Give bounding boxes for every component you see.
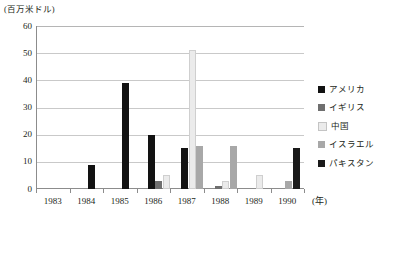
x-axis-tick xyxy=(103,189,104,193)
bar xyxy=(122,83,129,189)
bar xyxy=(88,165,95,189)
legend-item: 中国 xyxy=(318,121,374,131)
x-axis-tick xyxy=(237,189,238,193)
x-axis-tick xyxy=(70,189,71,193)
legend-item: パキスタン xyxy=(318,158,374,168)
x-axis-unit-label: (年) xyxy=(312,197,327,206)
legend-item-label: アメリカ xyxy=(329,85,365,94)
y-axis-tick-label: 60 xyxy=(2,22,32,31)
legend-swatch-icon xyxy=(318,160,325,167)
y-axis-tick-label: 20 xyxy=(2,130,32,139)
bars-layer xyxy=(36,26,304,189)
x-axis-tick xyxy=(271,189,272,193)
legend-item-label: 中国 xyxy=(331,122,349,131)
chart-legend: アメリカイギリス中国イスラエルパキスタン xyxy=(318,84,374,177)
bar xyxy=(285,181,292,189)
bar xyxy=(215,186,222,189)
y-axis-tick-label: 30 xyxy=(2,103,32,112)
legend-item-label: イスラエル xyxy=(329,140,374,149)
x-axis-tick xyxy=(137,189,138,193)
bar xyxy=(256,175,263,189)
x-axis-tick xyxy=(304,189,305,193)
bar xyxy=(230,146,237,189)
legend-swatch-icon xyxy=(318,141,325,148)
bar xyxy=(196,146,203,189)
bar xyxy=(148,135,155,189)
chart-figure: (百万米ドル) 0102030405060 198319841985198619… xyxy=(0,0,415,265)
bar xyxy=(222,181,229,189)
x-axis-tick xyxy=(170,189,171,193)
bar xyxy=(155,181,162,189)
legend-swatch-icon xyxy=(318,86,325,93)
y-axis-tick-label: 50 xyxy=(2,49,32,58)
y-axis-tick-label: 40 xyxy=(2,76,32,85)
legend-item: イスラエル xyxy=(318,140,374,150)
bar xyxy=(163,175,170,189)
legend-swatch-icon xyxy=(318,104,325,111)
bar xyxy=(189,50,196,189)
x-axis-tick-label: 1990 xyxy=(267,197,307,206)
legend-item: イギリス xyxy=(318,103,374,113)
y-axis-unit-label: (百万米ドル) xyxy=(4,2,55,14)
y-axis-tick-label: 0 xyxy=(2,185,32,194)
legend-swatch-icon xyxy=(318,122,327,131)
bar xyxy=(293,148,300,189)
legend-item-label: パキスタン xyxy=(329,159,374,168)
bar xyxy=(181,148,188,189)
legend-item: アメリカ xyxy=(318,84,374,94)
legend-item-label: イギリス xyxy=(329,103,365,112)
x-axis-tick xyxy=(204,189,205,193)
x-axis-tick xyxy=(36,189,37,193)
y-axis-tick-label: 10 xyxy=(2,157,32,166)
